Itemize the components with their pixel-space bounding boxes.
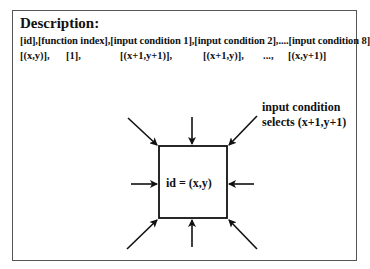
callout-line-2: selects (x+1,y+1) <box>262 115 346 130</box>
callout-line-1: input condition <box>262 100 346 115</box>
cell-id-label: id = (x,y) <box>166 176 212 191</box>
arrow-top-left-icon <box>128 118 157 145</box>
callout-label: input condition selects (x+1,y+1) <box>262 100 346 130</box>
arrow-bottom-right-icon <box>229 220 257 249</box>
arrow-bottom-left-icon <box>127 220 157 249</box>
arrow-top-right-icon <box>229 116 257 145</box>
